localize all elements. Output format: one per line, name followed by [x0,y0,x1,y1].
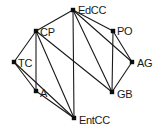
graph-node-dot[interactable] [111,29,115,33]
graph-node[interactable]: PO [111,25,133,37]
graph-node-label: CP [40,26,55,38]
graph-edge [73,10,112,92]
graph-node-label: PO [117,25,133,37]
graph-node[interactable]: EdCC [71,4,107,16]
graph-node-label: GB [117,88,132,100]
graph-canvas: EdCCPOCPAGTCGBAEntCC [0,0,155,131]
graph-node[interactable]: AG [130,57,152,69]
graph-node-label: AG [137,57,152,69]
graph-node[interactable]: CP [34,26,55,38]
graph-node-label: A [40,87,48,99]
graph-node-label: EdCC [78,4,106,16]
graph-node-dot[interactable] [72,116,76,120]
graph-node-dot[interactable] [130,60,134,64]
graph-edge [112,31,113,92]
graph-edge [73,10,74,118]
graph-diagram: EdCCPOCPAGTCGBAEntCC [0,0,155,131]
graph-node-label: TC [18,57,32,69]
graph-node[interactable]: EntCC [72,114,110,126]
graph-node-dot[interactable] [110,90,114,94]
graph-node-dot[interactable] [34,89,38,93]
graph-node-dot[interactable] [71,8,75,12]
graph-node[interactable]: TC [12,57,33,69]
graph-node-label: EntCC [79,114,110,126]
graph-node-dot[interactable] [12,60,16,64]
node-layer: EdCCPOCPAGTCGBAEntCC [12,4,152,126]
graph-node-dot[interactable] [34,29,38,33]
